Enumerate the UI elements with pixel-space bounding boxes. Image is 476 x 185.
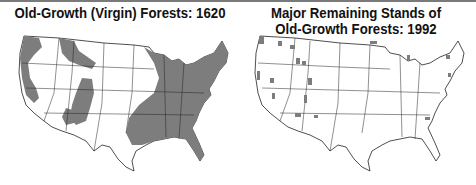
map-title-1620: Old-Growth (Virgin) Forests: 1620 bbox=[14, 5, 225, 21]
us-map-1620 bbox=[14, 33, 229, 178]
map-title-1992-line1: Major Remaining Stands of bbox=[250, 5, 461, 21]
top-rule bbox=[0, 0, 476, 2]
us-map-1992 bbox=[250, 33, 465, 178]
